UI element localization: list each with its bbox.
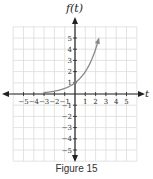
svg-text:−2: −2	[62, 113, 72, 121]
svg-text:−3: −3	[39, 98, 49, 106]
svg-text:3: 3	[104, 98, 108, 106]
chart-canvas: −5−4−3−2−112345−5−4−3−2−112345	[0, 0, 153, 179]
svg-text:1: 1	[83, 98, 87, 106]
y-axis-label: f(t)	[66, 2, 83, 15]
svg-text:−1: −1	[62, 102, 72, 110]
svg-text:−3: −3	[62, 124, 72, 132]
svg-text:−4: −4	[29, 98, 40, 106]
figure-caption: Figure 15	[0, 163, 153, 174]
svg-text:5: 5	[124, 98, 128, 106]
svg-text:−5: −5	[18, 98, 28, 106]
svg-text:5: 5	[68, 35, 72, 43]
svg-text:3: 3	[68, 57, 72, 65]
svg-text:2: 2	[93, 98, 97, 106]
svg-text:−5: −5	[62, 147, 72, 155]
svg-text:4: 4	[114, 98, 119, 106]
svg-text:−4: −4	[62, 135, 73, 143]
svg-text:−2: −2	[49, 98, 59, 106]
svg-text:2: 2	[68, 68, 72, 76]
svg-text:4: 4	[68, 46, 73, 54]
x-axis-label: t	[145, 88, 149, 99]
